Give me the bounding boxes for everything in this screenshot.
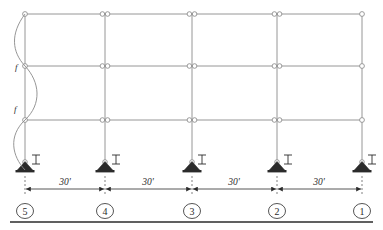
grid-bubble-group: 54321 [17,204,371,219]
hinge-joint [100,64,105,69]
support-base-plate [16,170,35,172]
hinge-joint [105,118,110,123]
grid-bubble-label: 1 [360,206,365,217]
hinge-joint [187,12,192,17]
hinge-joint [360,64,365,69]
support-base-plate [183,170,202,172]
inertia-labels-group [32,155,376,164]
support-base-plate [268,170,287,172]
grid-bubble-label: 5 [23,206,28,217]
hinge-joint [192,64,197,69]
pin-support-triangle [355,162,370,171]
dimension-label: 30' [312,177,326,187]
hinge-joint [187,64,192,69]
frame-elevation-figure: f f 30'30'30'30' 54321 [0,0,383,230]
hinge-joint [100,12,105,17]
hinge-joint [105,64,110,69]
grid-bubble-label: 2 [275,206,280,217]
hinge-joint [100,118,105,123]
support-base-plate [96,170,115,172]
grid-bubble-label: 4 [103,206,108,217]
hinge-joint [277,118,282,123]
dimension-label: 30' [141,177,155,187]
hinge-joint [272,12,277,17]
hinge-joint [192,118,197,123]
hinge-joint [105,12,110,17]
frame-diagram-svg: f f 30'30'30'30' 54321 [0,0,383,230]
supports-group [16,160,372,173]
hinge-joint [360,118,365,123]
hinge-joint [272,118,277,123]
hinge-joint [192,12,197,17]
joints-group [23,12,365,123]
hinge-joint [277,12,282,17]
pin-support-triangle [98,162,113,171]
grid-bubble-label: 3 [190,206,195,217]
dimension-line-group: 30'30'30'30' [25,176,362,194]
dimension-label: 30' [58,177,72,187]
hinge-joint [272,64,277,69]
columns-group [25,14,362,170]
hinge-joint [187,118,192,123]
hinge-joint [277,64,282,69]
pin-support-triangle [185,162,200,171]
buckle-label-lower: f [14,104,18,114]
pin-support-triangle [270,162,285,171]
hinge-joint [360,12,365,17]
buckle-label-upper: f [15,62,19,72]
support-base-plate [353,170,372,172]
dimension-label: 30' [227,177,241,187]
